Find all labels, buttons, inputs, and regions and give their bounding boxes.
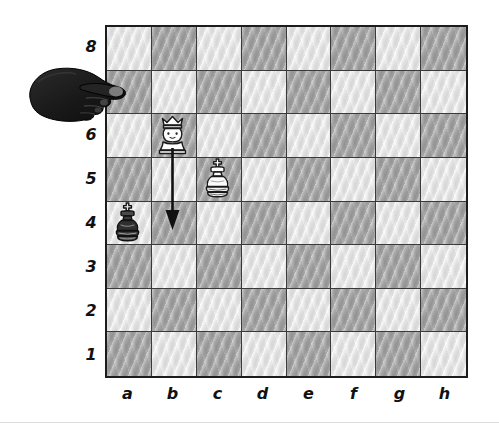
square-h4[interactable] [421,202,466,246]
square-a6[interactable] [107,114,152,158]
square-g2[interactable] [376,289,421,333]
square-g1[interactable] [376,332,421,376]
square-f4[interactable] [331,202,376,246]
chessboard[interactable] [105,25,468,378]
chess-puzzle-screen: 8 7 6 5 4 3 2 1 a b c d e f g h [0,0,499,430]
square-b5[interactable] [152,158,197,202]
square-e4[interactable] [287,202,332,246]
square-e1[interactable] [287,332,332,376]
square-e5[interactable] [287,158,332,202]
square-e7[interactable] [287,71,332,115]
square-h5[interactable] [421,158,466,202]
square-f5[interactable] [331,158,376,202]
square-a5[interactable] [107,158,152,202]
rank-label-1: 1 [80,347,102,363]
rank-label-8: 8 [80,39,102,55]
rank-label-3: 3 [80,259,102,275]
rank-label-2: 2 [80,303,102,319]
square-b2[interactable] [152,289,197,333]
square-d7[interactable] [242,71,287,115]
file-label-d: d [240,386,285,402]
square-g5[interactable] [376,158,421,202]
square-c3[interactable] [197,245,242,289]
square-d2[interactable] [242,289,287,333]
square-e6[interactable] [287,114,332,158]
square-f8[interactable] [331,27,376,71]
square-e3[interactable] [287,245,332,289]
square-h1[interactable] [421,332,466,376]
file-label-b: b [150,386,195,402]
square-g6[interactable] [376,114,421,158]
square-a3[interactable] [107,245,152,289]
square-b4[interactable] [152,202,197,246]
file-label-a: a [105,386,150,402]
square-c1[interactable] [197,332,242,376]
square-c4[interactable] [197,202,242,246]
file-label-g: g [377,386,422,402]
square-c2[interactable] [197,289,242,333]
square-f2[interactable] [331,289,376,333]
square-d4[interactable] [242,202,287,246]
square-d8[interactable] [242,27,287,71]
square-e2[interactable] [287,289,332,333]
square-h8[interactable] [421,27,466,71]
file-label-h: h [422,386,467,402]
square-a2[interactable] [107,289,152,333]
file-label-e: e [286,386,331,402]
square-g7[interactable] [376,71,421,115]
square-g4[interactable] [376,202,421,246]
square-d5[interactable] [242,158,287,202]
square-a4[interactable] [107,202,152,246]
rank-label-6: 6 [80,127,102,143]
square-a7[interactable] [107,71,152,115]
square-c5[interactable] [197,158,242,202]
square-c7[interactable] [197,71,242,115]
square-b1[interactable] [152,332,197,376]
square-b8[interactable] [152,27,197,71]
square-g3[interactable] [376,245,421,289]
square-d3[interactable] [242,245,287,289]
square-d6[interactable] [242,114,287,158]
square-h6[interactable] [421,114,466,158]
square-d1[interactable] [242,332,287,376]
square-h3[interactable] [421,245,466,289]
square-h7[interactable] [421,71,466,115]
rank-label-4: 4 [80,215,102,231]
square-a1[interactable] [107,332,152,376]
frame-divider [0,422,499,423]
file-label-f: f [331,386,376,402]
rank-label-5: 5 [80,171,102,187]
square-f1[interactable] [331,332,376,376]
rank-label-7: 7 [80,83,102,99]
chessboard-grid[interactable] [105,25,468,378]
file-label-c: c [195,386,240,402]
square-f3[interactable] [331,245,376,289]
square-g8[interactable] [376,27,421,71]
square-h2[interactable] [421,289,466,333]
square-f6[interactable] [331,114,376,158]
square-b7[interactable] [152,71,197,115]
square-b3[interactable] [152,245,197,289]
square-e8[interactable] [287,27,332,71]
square-b6[interactable] [152,114,197,158]
square-c6[interactable] [197,114,242,158]
square-f7[interactable] [331,71,376,115]
square-c8[interactable] [197,27,242,71]
square-a8[interactable] [107,27,152,71]
